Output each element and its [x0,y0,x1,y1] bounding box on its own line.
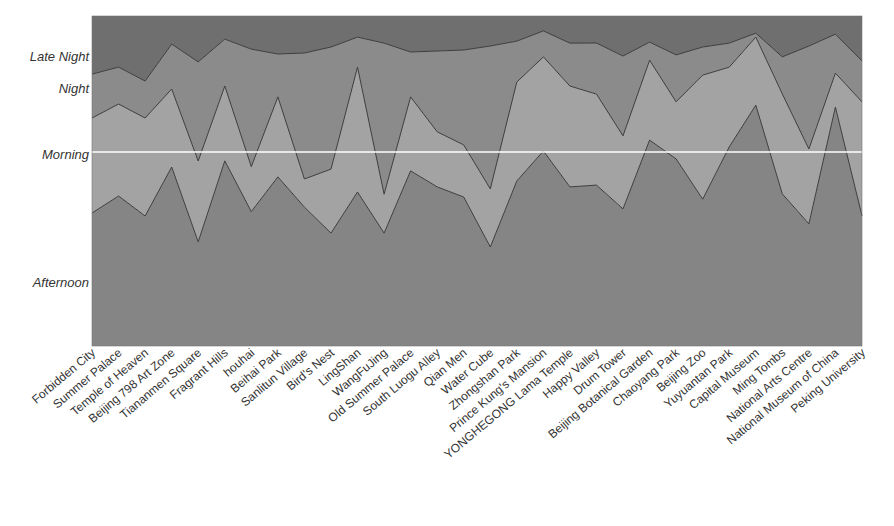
y-axis-labels: Late NightNightMorningAfternoon [30,49,91,290]
area-layers [92,16,862,346]
y-label-morning: Morning [42,147,90,162]
stacked-area-chart: Late NightNightMorningAfternoon Forbidde… [0,0,894,526]
y-label-night: Night [59,81,91,96]
x-axis-labels: Forbidden CitySummer PalaceTemple of Hea… [29,345,868,462]
y-label-afternoon: Afternoon [32,275,89,290]
y-label-late-night: Late Night [30,49,91,64]
